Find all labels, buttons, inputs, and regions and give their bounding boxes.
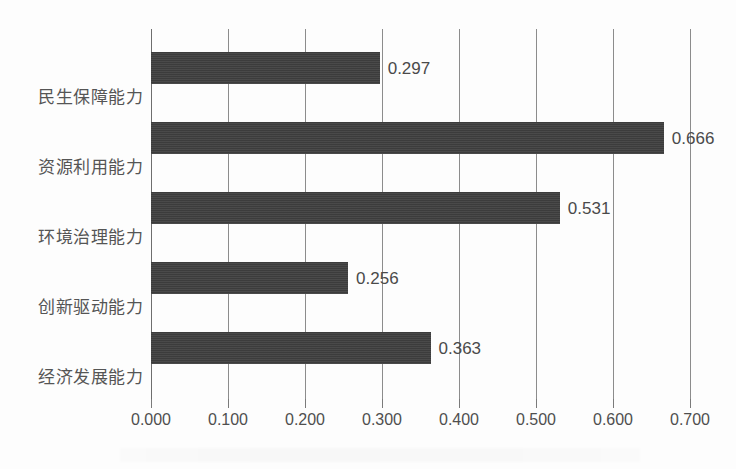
x-tick-label-4: 0.400 [439,411,479,429]
tickmark-0.200 [305,399,306,408]
bar-value-label-2: 0.531 [568,200,611,217]
bar-value-label-4: 0.363 [439,340,482,357]
gridline-0.600 [613,29,614,399]
x-axis-tick-labels: 0.000 0.100 0.200 0.300 0.400 0.500 0.60… [151,411,690,435]
tickmark-0.400 [459,399,460,408]
tickmark-0.100 [228,399,229,408]
bar-value-label-3: 0.256 [356,270,399,287]
x-tick-label-5: 0.500 [516,411,556,429]
bar-chart-figure: 民生保障能力 资源利用能力 环境治理能力 创新驱动能力 经济发展能力 0.297… [0,0,736,469]
y-axis-label-2: 环境治理能力 [5,229,143,246]
bar-3 [151,262,348,294]
bar-0 [151,52,380,84]
plot-area: 0.297 0.666 0.531 0.256 0.363 [151,29,690,399]
x-tick-label-7: 0.700 [670,411,710,429]
bar-4 [151,332,431,364]
tickmark-0.000 [151,399,152,408]
y-axis-label-4: 经济发展能力 [5,369,143,386]
tickmark-0.600 [613,399,614,408]
y-axis-label-1: 资源利用能力 [5,159,143,176]
x-tick-label-2: 0.200 [285,411,325,429]
bar-2 [151,192,560,224]
bar-value-label-1: 0.666 [672,130,715,147]
bar-1 [151,122,664,154]
x-tick-label-3: 0.300 [362,411,402,429]
y-axis-label-0: 民生保障能力 [5,89,143,106]
x-tick-label-1: 0.100 [208,411,248,429]
tickmark-0.700 [690,399,691,408]
y-axis-category-labels: 民生保障能力 资源利用能力 环境治理能力 创新驱动能力 经济发展能力 [0,29,143,399]
tickmark-0.500 [536,399,537,408]
y-axis-label-3: 创新驱动能力 [5,299,143,316]
tickmark-0.300 [382,399,383,408]
bar-value-label-0: 0.297 [388,60,431,77]
x-tick-label-6: 0.600 [593,411,633,429]
x-tick-label-0: 0.000 [131,411,171,429]
scan-artifact [120,448,640,462]
gridline-0.700 [690,29,691,399]
